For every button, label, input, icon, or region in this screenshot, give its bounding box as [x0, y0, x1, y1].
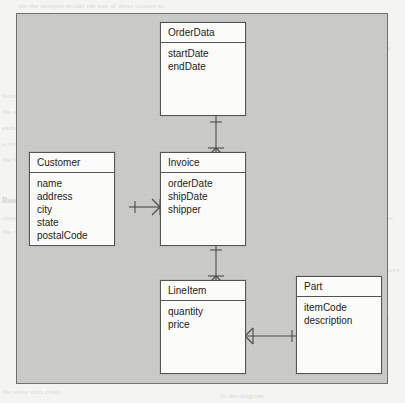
attribute: quantity: [168, 305, 245, 318]
bleed-line: the the analysis model the use of these …: [18, 2, 163, 10]
attribute: description: [304, 314, 381, 327]
class-box-lineitem[interactable]: LineItem quantity price: [160, 280, 246, 374]
attribute: city: [37, 203, 114, 216]
scanned-page: the the analysis model the use of these …: [0, 0, 405, 403]
class-box-part[interactable]: Part itemCode description: [296, 276, 382, 374]
class-name-invoice: Invoice: [161, 153, 245, 173]
attribute: itemCode: [304, 301, 381, 314]
connector-orderdata-invoice: [204, 114, 228, 156]
connector-customer-invoice: [129, 195, 161, 219]
class-attributes-lineitem: quantity price: [161, 301, 245, 331]
class-attributes-orderdata: startDate endDate: [161, 43, 245, 73]
class-attributes-part: itemCode description: [297, 297, 381, 327]
attribute: price: [168, 318, 245, 331]
class-name-customer: Customer: [30, 153, 114, 173]
class-attributes-invoice: orderDate shipDate shipper: [161, 173, 245, 216]
class-attributes-customer: name address city state postalCode: [30, 173, 114, 242]
class-name-lineitem: LineItem: [161, 281, 245, 301]
connector-lineitem-part: [244, 324, 300, 348]
bleed-line: In the diagram: [220, 392, 264, 400]
class-name-part: Part: [297, 277, 381, 297]
attribute: postalCode: [37, 229, 114, 242]
attribute: address: [37, 190, 114, 203]
class-name-orderdata: OrderData: [161, 23, 245, 43]
class-box-customer[interactable]: Customer name address city state postalC…: [29, 152, 115, 246]
attribute: endDate: [168, 60, 245, 73]
attribute: shipDate: [168, 190, 245, 203]
attribute: state: [37, 216, 114, 229]
class-box-orderdata[interactable]: OrderData startDate endDate: [160, 22, 246, 116]
class-box-invoice[interactable]: Invoice orderDate shipDate shipper: [160, 152, 246, 246]
attribute: orderDate: [168, 177, 245, 190]
bleed-line: the order data class: [2, 388, 60, 396]
diagram-frame: OrderData startDate endDate Customer nam…: [16, 13, 388, 384]
attribute: startDate: [168, 47, 245, 60]
attribute: name: [37, 177, 114, 190]
connector-invoice-lineitem: [204, 242, 228, 284]
attribute: shipper: [168, 203, 245, 216]
